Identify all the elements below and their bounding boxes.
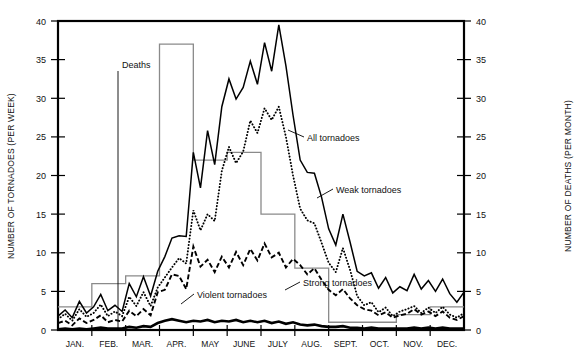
left-axis-tick-labels: 0 5 10 15 20 25 30 35 40 [36,17,46,336]
right-tick-0: 0 [476,326,481,336]
annotation-all-tornadoes: All tornadoes [307,133,360,143]
month-label-mar: MAR. [132,339,153,349]
month-label-nov: NOV. [403,339,423,349]
annotation-deaths: Deaths [122,60,151,70]
left-tick-0: 0 [41,326,46,336]
month-label-feb: FEB. [99,339,118,349]
month-label-sept: SEPT. [334,339,358,349]
chart-canvas: 0 5 10 15 20 25 30 35 40 0 5 10 1 [0,0,585,363]
left-tick-40: 40 [36,17,46,27]
x-axis-month-labels: JAN.FEB.MAR.APR.MAYJUNEJULYAUG.SEPT.OCT.… [66,339,458,349]
month-label-july: JULY [268,339,288,349]
right-tick-10: 10 [476,248,486,258]
right-axis-tick-labels: 0 5 10 15 20 25 30 35 40 [476,17,486,336]
y2-axis-title: NUMBER OF DEATHS (PER MONTH) [563,100,573,252]
right-tick-25: 25 [476,132,486,142]
right-tick-40: 40 [476,17,486,27]
annotation-strong-tornadoes: Strong tornadoes [303,278,373,288]
series-strong-tornadoes [58,243,464,325]
month-label-apr: APR. [166,339,186,349]
left-tick-35: 35 [36,55,46,65]
month-label-june: JUNE [233,339,256,349]
annotation-weak-tornadoes: Weak tornadoes [336,185,402,195]
series-deaths-step [58,44,464,322]
right-tick-35: 35 [476,55,486,65]
left-tick-30: 30 [36,94,46,104]
month-label-jan: JAN. [66,339,84,349]
month-label-may: MAY [201,339,219,349]
left-tick-20: 20 [36,171,46,181]
left-tick-5: 5 [41,287,46,297]
y-axis-title: NUMBER OF TORNADOES (PER WEEK) [6,93,16,259]
tornado-climatology-chart: 0 5 10 15 20 25 30 35 40 0 5 10 1 [0,0,585,363]
right-tick-15: 15 [476,210,486,220]
annotation-violent-tornadoes: Violent tornadoes [197,290,267,300]
left-tick-10: 10 [36,248,46,258]
right-tick-20: 20 [476,171,486,181]
left-tick-25: 25 [36,132,46,142]
month-label-oct: OCT. [370,339,389,349]
right-tick-5: 5 [476,287,481,297]
left-tick-15: 15 [36,210,46,220]
right-tick-30: 30 [476,94,486,104]
month-label-dec: DEC. [437,339,457,349]
month-label-aug: AUG. [301,339,322,349]
